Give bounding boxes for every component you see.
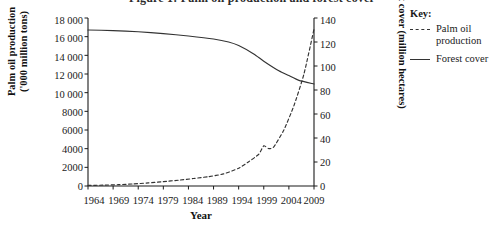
legend-item-forest-cover: Forest cover (410, 53, 488, 66)
legend-item-label: Palm oil production (436, 23, 482, 48)
series-line-forest-cover (88, 30, 314, 84)
legend-item-label: Forest cover (436, 53, 488, 66)
legend-item-palm-oil: Palm oil production (410, 23, 488, 48)
solid-line-icon (410, 53, 432, 65)
chart-figure: Figure 1: Palm oil production and forest… (0, 0, 504, 231)
dashed-line-icon (410, 23, 432, 35)
axis-lines (88, 18, 314, 186)
legend-title: Key: (410, 8, 488, 21)
series-line-palm-oil (88, 29, 314, 185)
chart-legend: Key: Palm oil production Forest cover (410, 8, 488, 65)
